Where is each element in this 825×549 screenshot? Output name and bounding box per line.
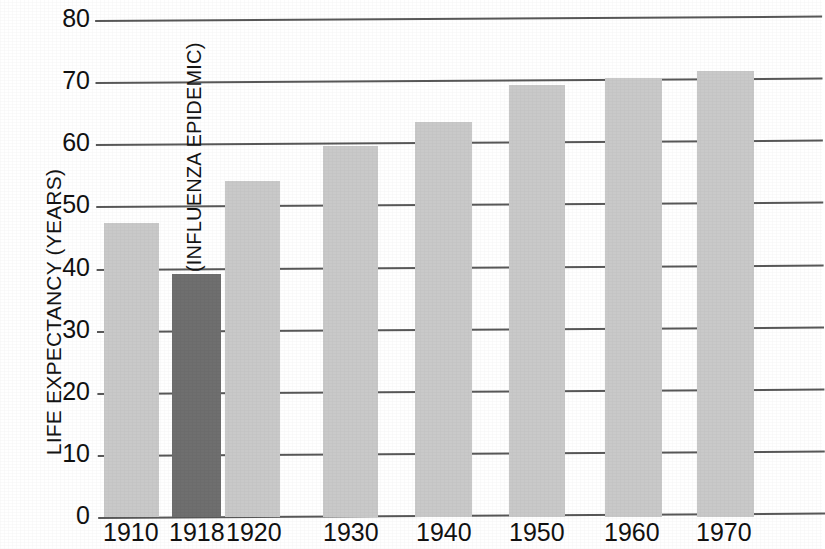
y-tick-label-20: 20 — [32, 379, 90, 404]
x-tick-label-1920: 1920 — [226, 520, 282, 545]
y-tick-label-80: 80 — [32, 6, 90, 31]
y-tick-label-70: 70 — [32, 68, 90, 93]
x-tick-label-1960: 1960 — [604, 520, 660, 545]
plot-area: 19101918192019301940195019601970 (INFLUE… — [95, 0, 822, 549]
x-tick-label-1940: 1940 — [416, 520, 472, 545]
x-tick-label-1910: 1910 — [103, 520, 159, 545]
y-tick-label-10: 10 — [32, 441, 90, 466]
x-tick-label-1950: 1950 — [509, 520, 565, 545]
y-axis-tick-labels: 01020304050607080 — [0, 0, 90, 549]
y-tick-label-60: 60 — [32, 130, 90, 155]
y-tick-label-50: 50 — [32, 192, 90, 217]
x-tick-label-1918: 1918 — [169, 520, 225, 545]
y-tick-label-40: 40 — [32, 255, 90, 280]
y-tick-label-0: 0 — [32, 503, 90, 528]
influenza-epidemic-annotation: (INFLUENZA EPIDEMIC) — [183, 42, 206, 272]
y-tick-label-30: 30 — [32, 317, 90, 342]
x-tick-label-1970: 1970 — [696, 520, 752, 545]
x-tick-label-1930: 1930 — [323, 520, 379, 545]
